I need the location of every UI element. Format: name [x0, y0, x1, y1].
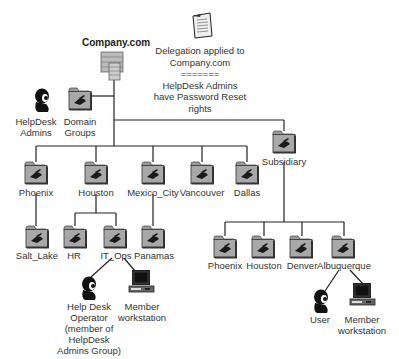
label-line: Admins — [15, 127, 56, 138]
helpdesk-operator-label: Help Desk Operator (member of HelpDesk A… — [57, 301, 121, 356]
folder-icon[interactable] — [26, 226, 49, 249]
folder-icon[interactable] — [142, 162, 165, 185]
it-ops-workstation-label: Member workstation — [118, 301, 166, 323]
label-line: Domain — [64, 116, 97, 127]
ou-label-mexico-city[interactable]: Mexico_City — [127, 187, 179, 198]
note-separator: ======= — [140, 68, 260, 80]
folder-icon[interactable] — [142, 226, 165, 249]
ou-label-hr[interactable]: HR — [67, 250, 81, 261]
domain-groups-label: Domain Groups — [64, 116, 97, 138]
server-stack-icon — [101, 52, 123, 80]
label-line: Member — [338, 314, 386, 325]
note-line: rights — [140, 103, 260, 115]
subsidiary-folder-icon[interactable] — [273, 131, 296, 154]
folder-icon[interactable] — [104, 226, 127, 249]
folder-icon[interactable] — [332, 236, 355, 259]
ou-label-sub-houston[interactable]: Houston — [246, 260, 281, 271]
folder-icon[interactable] — [64, 226, 87, 249]
label-line: (member of — [57, 323, 121, 334]
label-line: Member — [118, 301, 166, 312]
delegation-note: Delegation applied to Company.com ======… — [140, 45, 260, 114]
ou-label-subsidiary[interactable]: Subsidiary — [262, 156, 306, 167]
user-label: User — [310, 314, 330, 325]
label-line: HelpDesk — [15, 116, 56, 127]
ou-label-sub-phoenix[interactable]: Phoenix — [208, 260, 242, 271]
folder-icon[interactable] — [214, 236, 237, 259]
label-line: Admins Group) — [57, 345, 121, 356]
label-line: workstation — [118, 312, 166, 323]
user-icon — [314, 290, 328, 314]
albuquerque-workstation-label: Member workstation — [338, 314, 386, 336]
label-line: Help Desk — [57, 301, 121, 312]
ou-label-phoenix[interactable]: Phoenix — [19, 187, 53, 198]
label-line: HelpDesk — [57, 334, 121, 345]
ou-label-panamas[interactable]: Panamas — [134, 250, 174, 261]
folder-icon[interactable] — [290, 236, 313, 259]
ou-label-dallas[interactable]: Dallas — [234, 187, 260, 198]
helpdesk-operator-user-icon — [82, 277, 96, 301]
ou-label-sub-denver[interactable]: Denver — [287, 260, 318, 271]
note-line: Delegation applied to — [140, 45, 260, 57]
workstation-computer-icon — [350, 283, 375, 305]
note-line: Company.com — [140, 57, 260, 69]
ou-label-houston[interactable]: Houston — [78, 187, 113, 198]
folder-icon[interactable] — [25, 162, 48, 185]
folder-icon[interactable] — [191, 162, 214, 185]
folder-icon[interactable] — [252, 236, 275, 259]
ou-label-sub-albuquerque[interactable]: Albuquerque — [317, 260, 371, 271]
folder-icon[interactable] — [236, 162, 259, 185]
ou-label-vancouver[interactable]: Vancouver — [180, 187, 225, 198]
note-line: have Password Reset — [140, 91, 260, 103]
ou-label-salt-lake[interactable]: Salt_Lake — [16, 250, 58, 261]
document-icon — [193, 13, 212, 38]
label-line: Operator — [57, 312, 121, 323]
note-line: HelpDesk Admins — [140, 80, 260, 92]
helpdesk-admins-group-icon — [35, 89, 49, 113]
folder-icon[interactable] — [85, 162, 108, 185]
helpdesk-admins-label: HelpDesk Admins — [15, 116, 56, 138]
domain-groups-folder-icon[interactable] — [69, 88, 92, 111]
ou-label-it-ops[interactable]: IT_Ops — [100, 250, 131, 261]
label-line: Groups — [64, 127, 97, 138]
label-line: workstation — [338, 325, 386, 336]
workstation-computer-icon — [129, 270, 154, 292]
